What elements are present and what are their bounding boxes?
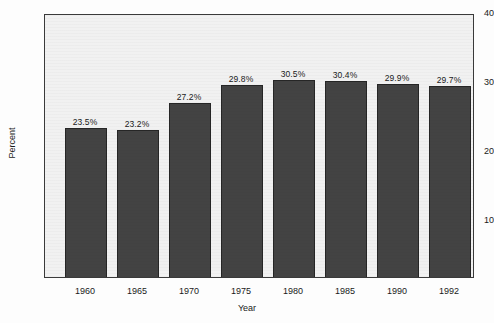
x-tick-label-1970: 1970	[159, 286, 219, 296]
value-label-1970: 27.2%	[159, 92, 219, 102]
x-tick-label-1990: 1990	[367, 286, 427, 296]
x-tick-label-1992: 1992	[419, 286, 479, 296]
plot-area	[44, 14, 474, 278]
bar-1965	[117, 130, 159, 278]
value-label-1992: 29.7%	[419, 75, 479, 85]
value-label-1960: 23.5%	[55, 117, 115, 127]
bar-chart-figure: 40 30 20 10 Percent 23.5% 23.2% 27.2% 29…	[0, 0, 494, 323]
y-axis-title: Percent	[7, 113, 17, 173]
bar-1990	[377, 84, 419, 278]
value-label-1990: 29.9%	[367, 73, 427, 83]
bar-1960	[65, 128, 107, 278]
x-tick-label-1980: 1980	[263, 286, 323, 296]
value-label-1975: 29.8%	[211, 74, 271, 84]
bar-1985	[325, 81, 367, 278]
value-label-1965: 23.2%	[107, 119, 167, 129]
x-tick-label-1975: 1975	[211, 286, 271, 296]
value-label-1985: 30.4%	[315, 70, 375, 80]
x-tick-label-1960: 1960	[55, 286, 115, 296]
value-label-1980: 30.5%	[263, 69, 323, 79]
bar-1970	[169, 103, 211, 278]
bar-1980	[273, 80, 315, 278]
bar-1975	[221, 85, 263, 278]
x-tick-label-1985: 1985	[315, 286, 375, 296]
x-tick-label-1965: 1965	[107, 286, 167, 296]
bar-1992	[429, 86, 471, 278]
x-axis-title: Year	[0, 303, 494, 313]
